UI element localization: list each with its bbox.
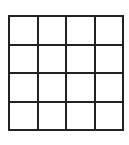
grid-cell-r3c2[interactable] xyxy=(38,73,67,102)
puzzle-grid xyxy=(8,15,124,131)
grid-cell-r1c2[interactable] xyxy=(38,16,67,45)
grid-cell-r2c2[interactable] xyxy=(38,45,67,74)
grid-cell-r4c4[interactable] xyxy=(95,102,124,131)
puzzle-heading: 32 xyxy=(0,0,129,4)
grid-cell-r3c3[interactable] xyxy=(66,73,95,102)
grid-cell-r1c1[interactable] xyxy=(9,16,38,45)
grid-cell-r1c4[interactable] xyxy=(95,16,124,45)
grid-cell-r4c2[interactable] xyxy=(38,102,67,131)
grid-cell-r1c3[interactable] xyxy=(66,16,95,45)
grid-cell-r2c1[interactable] xyxy=(9,45,38,74)
grid-cell-r4c1[interactable] xyxy=(9,102,38,131)
grid-cell-r2c3[interactable] xyxy=(66,45,95,74)
grid-cell-r2c4[interactable] xyxy=(95,45,124,74)
grid-cell-r3c1[interactable] xyxy=(9,73,38,102)
grid-cell-r3c4[interactable] xyxy=(95,73,124,102)
grid-cell-r4c3[interactable] xyxy=(66,102,95,131)
